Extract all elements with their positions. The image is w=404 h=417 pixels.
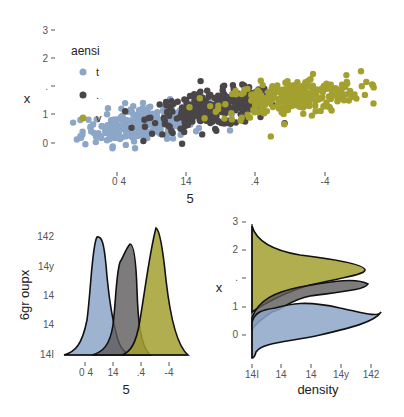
x-axis-label: 5 (122, 382, 129, 397)
scatter-point (128, 106, 134, 112)
scatter-point (359, 83, 365, 89)
scatter-point (246, 114, 252, 120)
legend-key-dot (80, 92, 87, 99)
scatter-point (312, 108, 318, 114)
scatter-point (177, 114, 183, 120)
scatter-point (197, 95, 203, 101)
scatter-point (281, 121, 287, 127)
left-y-axis: 142 14y 14 14 14I 6gr oupx (17, 231, 54, 360)
y-tick: 14 (43, 319, 55, 330)
scatter-point (157, 101, 163, 107)
scatter-point (260, 110, 266, 116)
right-x-axis: 14I 14 14 14y 142 density (245, 364, 380, 397)
legend-label: t (96, 66, 99, 78)
scatter-point (242, 100, 248, 106)
legend-label: v (96, 112, 102, 124)
left-x-axis: 0 4 14 .4 -4 5 (79, 362, 174, 397)
legend: aensi t . v (71, 44, 102, 124)
scatter-point (149, 131, 155, 137)
scatter-point (248, 92, 254, 98)
scatter-point (87, 124, 93, 130)
y-tick: 3 (232, 216, 238, 227)
density-curve-t (252, 303, 381, 358)
scatter-point (201, 115, 207, 121)
scatter-point (244, 86, 250, 92)
scatter-point (284, 78, 290, 84)
scatter-point (207, 103, 213, 109)
x-axis-label: 5 (186, 191, 193, 206)
x-tick: 14 (305, 369, 317, 380)
scatter-point (252, 104, 258, 110)
scatter-point (342, 84, 348, 90)
y-tick: 1 (42, 109, 48, 120)
x-tick: 14y (333, 369, 349, 380)
scatter-point (181, 96, 187, 102)
scatter-point (323, 99, 329, 105)
scatter-point (255, 92, 261, 98)
scatter-point (282, 86, 288, 92)
scatter-point (291, 82, 297, 88)
legend-title: aensi (71, 44, 100, 58)
scatter-point (310, 71, 316, 77)
scatter-point (362, 92, 368, 98)
scatter-point (370, 82, 376, 88)
x-tick: 0 4 (112, 176, 126, 187)
scatter-point (220, 90, 226, 96)
scatter-point (136, 107, 142, 113)
y-tick: 3 (42, 25, 48, 36)
scatter-point (293, 95, 299, 101)
y-tick: 0 (232, 329, 238, 340)
y-tick: 14y (38, 261, 54, 272)
scatter-point (82, 141, 88, 147)
scatter-point (227, 127, 233, 133)
scatter-point (135, 119, 141, 125)
scatter-point (105, 105, 111, 111)
scatter-point (140, 100, 146, 106)
scatter-point (358, 68, 364, 74)
scatter-point (309, 91, 315, 97)
scatter-point (268, 133, 274, 139)
x-tick: 14I (245, 369, 259, 380)
scatter-point (302, 92, 308, 98)
y-tick: 0 (42, 138, 48, 149)
scatter-point (132, 145, 138, 151)
y-tick: 14 (43, 290, 55, 301)
scatter-point (260, 82, 266, 88)
scatter-point (334, 98, 340, 104)
scatter-point (95, 130, 101, 136)
x-axis-label: density (297, 382, 339, 397)
x-tick: 14 (107, 367, 119, 378)
scatter-point (170, 130, 176, 136)
scatter-point (197, 88, 203, 94)
y-tick: . (45, 81, 48, 92)
scatter-point (229, 116, 235, 122)
y-axis-label: 6gr oupx (17, 269, 32, 320)
scatter-point (93, 139, 99, 145)
density-panel-left: 142 14y 14 14 14I 6gr oupx 0 4 14 .4 -4 … (17, 228, 188, 397)
scatter-point (265, 98, 271, 104)
x-tick: 14 (180, 176, 192, 187)
scatter-point (107, 136, 113, 142)
scatter-point (177, 126, 183, 132)
y-tick: 1 (232, 301, 238, 312)
scatter-point (221, 82, 227, 88)
scatter-point (204, 88, 210, 94)
scatter-point (79, 131, 85, 137)
scatter-point (208, 116, 214, 122)
x-tick: 142 (363, 369, 380, 380)
scatter-point (237, 117, 243, 123)
scatter-point (147, 104, 153, 110)
x-tick: -4 (321, 176, 330, 187)
scatter-point (193, 128, 199, 134)
scatter-point (135, 113, 141, 119)
scatter-point (183, 120, 189, 126)
scatter-point (115, 123, 121, 129)
scatter-points (70, 68, 377, 151)
scatter-point (135, 129, 141, 135)
scatter-y-axis: 3 2 . 1 0 x (24, 25, 55, 149)
scatter-point (232, 103, 238, 109)
scatter-point (302, 87, 308, 93)
scatter-point (281, 102, 287, 108)
scatter-point (213, 128, 219, 134)
legend-key-v (80, 115, 87, 122)
